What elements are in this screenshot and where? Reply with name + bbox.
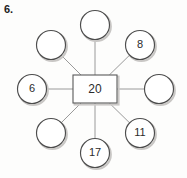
worksheet-problem: 6. 20 811176 [0, 0, 187, 178]
center-node-value: 20 [88, 82, 102, 96]
node-bottom-left-circle[interactable] [37, 119, 66, 148]
spoke-line-bottom-right [109, 103, 129, 123]
node-right-circle[interactable] [145, 75, 174, 104]
node-top-right-value: 8 [137, 38, 143, 50]
node-top-left-circle[interactable] [37, 31, 66, 60]
spoke-line-top-right [109, 55, 129, 75]
node-bottom-value: 17 [89, 146, 101, 158]
number-web-diagram: 20 811176 [0, 0, 187, 178]
node-left-value: 6 [29, 82, 35, 94]
spoke-line-top-left [61, 55, 81, 75]
node-top-circle[interactable] [81, 11, 110, 40]
spoke-line-bottom-left [61, 103, 81, 123]
center-node-group: 20 [73, 75, 119, 105]
node-bottom-right-value: 11 [134, 126, 145, 138]
